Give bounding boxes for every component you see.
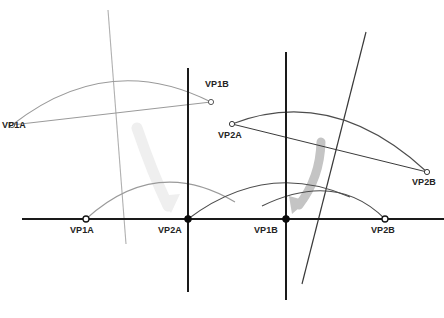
vp1b-upper-marker	[208, 99, 213, 104]
arc-upper-right	[232, 112, 427, 172]
oblique-line-right	[302, 32, 366, 284]
vanishing-point-diagram: VP1A VP1B VP2A VP2B VP1A VP2A VP1B VP2B	[0, 0, 444, 318]
diagram-canvas	[0, 0, 444, 318]
vp2a-upper-marker	[229, 121, 234, 126]
oblique-line-left	[108, 10, 126, 244]
arc-lower-far-right	[262, 191, 385, 219]
label-vp2a-upper: VP2A	[218, 131, 242, 140]
arc-upper-left	[12, 81, 211, 125]
arc-lower-right	[188, 183, 350, 219]
axis-layer	[22, 52, 444, 300]
label-vp2b-upper: VP2B	[412, 178, 436, 187]
projection-arrow-right	[299, 142, 321, 205]
vp2b-base-marker	[382, 216, 388, 222]
vp1a-base-marker	[83, 216, 89, 222]
label-vp1a-base: VP1A	[70, 226, 94, 235]
vp1b-base-marker	[283, 216, 290, 223]
arc-layer	[12, 81, 427, 219]
projection-arrow-left	[137, 128, 168, 206]
arrow-layer	[137, 128, 321, 214]
label-vp1b-base: VP1B	[254, 226, 278, 235]
label-vp1b-upper: VP1B	[205, 80, 229, 89]
label-vp2b-base: VP2B	[371, 226, 395, 235]
label-vp2a-base: VP2A	[158, 226, 182, 235]
vp2b-upper-marker	[424, 169, 429, 174]
label-vp1a-upper: VP1A	[2, 121, 26, 130]
vp2a-base-marker	[185, 216, 192, 223]
